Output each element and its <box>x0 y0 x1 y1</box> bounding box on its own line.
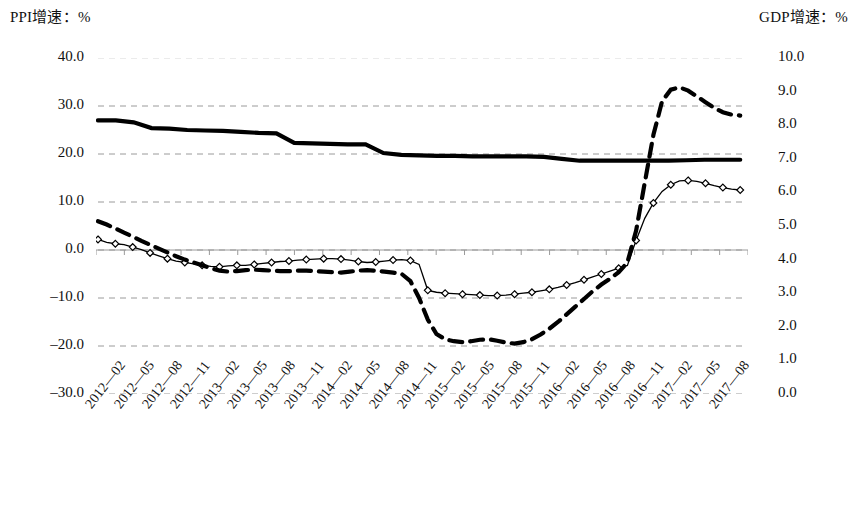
data-point-marker <box>459 291 466 298</box>
data-point-marker <box>320 255 327 262</box>
data-point-marker <box>96 236 101 243</box>
left-axis-tick: 10.0 <box>24 192 84 209</box>
series-line-thick-solid-series <box>98 120 740 160</box>
right-axis-tick: 4.0 <box>778 250 838 267</box>
data-point-marker <box>251 261 258 268</box>
plot-area <box>96 58 748 394</box>
x-axis-tick-group: 2012—022012—052012—082012—112013—022013—… <box>0 398 856 505</box>
data-point-marker <box>164 255 171 262</box>
right-axis-tick: 7.0 <box>778 149 838 166</box>
data-point-marker <box>372 259 379 266</box>
data-point-marker <box>112 240 119 247</box>
data-point-marker <box>390 257 397 264</box>
data-point-marker <box>563 282 570 289</box>
right-axis-tick: 9.0 <box>778 82 838 99</box>
data-point-marker <box>286 258 293 265</box>
right-axis-tick: 2.0 <box>778 317 838 334</box>
left-axis-tick: 0.0 <box>24 240 84 257</box>
data-point-marker <box>233 262 240 269</box>
left-axis-tick: 20.0 <box>24 144 84 161</box>
data-point-marker <box>702 180 709 187</box>
left-axis-title: PPI增速：% <box>10 5 91 26</box>
right-axis-tick: 8.0 <box>778 115 838 132</box>
data-point-marker <box>719 184 726 191</box>
data-point-marker <box>303 256 310 263</box>
right-axis-tick: 6.0 <box>778 182 838 199</box>
plot-svg <box>96 58 748 394</box>
data-point-marker <box>355 258 362 265</box>
right-axis-tick: 3.0 <box>778 283 838 300</box>
right-axis-title: GDP增速：% <box>759 5 848 26</box>
left-axis-tick: 40.0 <box>24 48 84 65</box>
right-axis-tick: 10.0 <box>778 48 838 65</box>
data-point-marker <box>598 271 605 278</box>
right-axis-tick: 1.0 <box>778 350 838 367</box>
data-point-marker <box>338 256 345 263</box>
data-point-marker <box>442 290 449 297</box>
left-axis-tick: –10.0 <box>24 288 84 305</box>
data-point-marker <box>424 287 431 294</box>
data-point-marker <box>546 286 553 293</box>
series-markers-diamond-marker-series <box>96 177 744 299</box>
chart-container: PPI增速：% GDP增速：% 40.030.020.010.00.0–10.0… <box>0 0 856 505</box>
data-point-marker <box>581 276 588 283</box>
data-point-marker <box>268 259 275 266</box>
left-axis-tick: –20.0 <box>24 336 84 353</box>
data-point-marker <box>737 187 744 194</box>
data-point-marker <box>511 291 518 298</box>
data-point-marker <box>685 177 692 184</box>
right-axis-tick: 5.0 <box>778 216 838 233</box>
left-axis-tick: 30.0 <box>24 96 84 113</box>
series-line-thick-dashed-series <box>98 87 740 343</box>
data-point-marker <box>407 257 414 264</box>
data-point-marker <box>529 289 536 296</box>
